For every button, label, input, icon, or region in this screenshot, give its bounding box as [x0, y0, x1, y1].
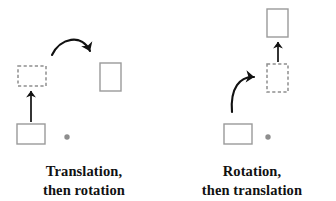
pivot-dot [64, 134, 69, 139]
panel-left-graphics [0, 0, 168, 160]
intermediate-square [267, 64, 288, 92]
panel-translation-then-rotation: Translation, then rotation [0, 0, 168, 201]
figure-root: Translation, then rotation [0, 0, 336, 201]
pivot-dot [265, 134, 270, 139]
start-square [17, 124, 45, 144]
rotation-arrow [52, 40, 90, 55]
panel-right-graphics [168, 0, 336, 160]
start-square [224, 124, 252, 144]
intermediate-square [18, 66, 46, 86]
caption-line-1: Translation, [0, 162, 168, 181]
caption-line-1: Rotation, [168, 162, 336, 181]
rotation-arrow [232, 77, 254, 112]
panel-rotation-then-translation: Rotation, then translation [168, 0, 336, 201]
final-square [267, 9, 288, 37]
caption-line-2: then rotation [0, 181, 168, 200]
caption-line-2: then translation [168, 181, 336, 200]
final-square [100, 63, 121, 91]
